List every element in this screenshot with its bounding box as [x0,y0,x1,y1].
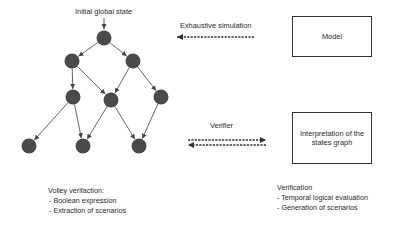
model-box: Model [292,16,372,57]
graph-edge [34,103,68,140]
graph-edge [138,67,156,91]
state-node [76,139,91,154]
notes-title: Volley verifaction: [48,186,126,196]
verifier-label: Verifier [210,121,233,130]
graph-edge [115,106,135,139]
notes-item: - Extraction of scenarios [48,206,126,216]
notes-item: - Temporal logical evaluation [277,193,368,203]
state-node [66,90,81,105]
graph-edge [115,68,129,93]
graph-edge [77,66,105,94]
state-node [97,31,112,46]
graph-edge [110,43,127,56]
notes-title: Verification [277,183,368,193]
graph-edge [72,68,73,89]
notes-item: - Boolean expression [48,196,126,206]
interpretation-box: Interpretation of the states graph [292,112,372,164]
state-node [132,139,147,154]
state-node [22,139,37,154]
verification-notes: Verification - Temporal logical evaluati… [277,183,368,213]
graph-edge [78,42,97,56]
model-label: Model [322,32,342,42]
exhaustive-simulation-label: Exhaustive simulation [180,21,251,30]
graph-nodes [22,31,169,154]
state-node [154,90,169,105]
notes-item: - Generation of scenarios [277,203,368,213]
initial-state-label: Initial global state [75,7,132,16]
state-node [65,54,80,69]
state-node [126,54,141,69]
state-node [104,93,119,108]
volley-verification-notes: Volley verifaction: - Boolean expression… [48,186,126,216]
interpretation-label: Interpretation of the states graph [297,129,367,148]
graph-edge [74,104,81,138]
graph-edges [34,42,158,140]
graph-edge [87,106,107,139]
graph-edge [142,104,158,139]
